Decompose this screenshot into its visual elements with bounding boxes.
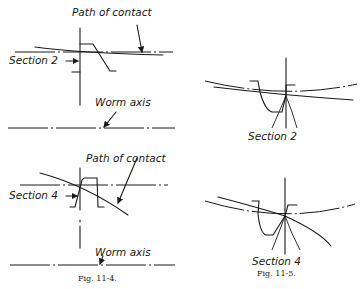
worm-axis-arrow bbox=[104, 112, 116, 127]
fig-11-5-section-2-panel: Section 2 bbox=[205, 58, 357, 142]
tooth-profile bbox=[70, 178, 104, 207]
section-2-label: Section 2 bbox=[9, 54, 58, 66]
path-of-contact-arrow bbox=[137, 25, 142, 52]
path-of-contact-arrow bbox=[118, 158, 137, 203]
worm-axis-label: Worm axis bbox=[95, 96, 151, 108]
fig-11-4-section-2-panel: Path of contact Section 2 Worm axis bbox=[8, 6, 175, 128]
path-of-contact-label: Path of contact bbox=[72, 6, 153, 18]
fig-11-4-section-4-panel: Path of contact Section 4 Worm axis Fig.… bbox=[9, 152, 175, 283]
section-2-label: Section 2 bbox=[248, 130, 297, 142]
worm-axis-label: Worm axis bbox=[95, 246, 151, 258]
flank-line-right bbox=[286, 96, 297, 128]
diagram-canvas: Path of contact Section 2 Worm axis Path… bbox=[0, 0, 363, 289]
flank-line-right bbox=[285, 216, 300, 250]
figure-caption: Fig. 11-5. bbox=[257, 269, 296, 278]
pitch-circle-arc bbox=[205, 201, 355, 214]
tooth-profile bbox=[250, 81, 295, 112]
figure-caption: Fig. 11-4. bbox=[78, 274, 117, 283]
path-of-contact-label: Path of contact bbox=[86, 152, 167, 164]
fig-11-5-section-4-panel: Section 4 Fig. 11-5. bbox=[205, 178, 355, 278]
path-of-contact-curve bbox=[218, 197, 331, 246]
pitch-circle-arc bbox=[205, 81, 357, 91]
tooth-profile bbox=[80, 44, 116, 71]
section-4-label: Section 4 bbox=[252, 255, 301, 267]
section-4-label: Section 4 bbox=[9, 189, 58, 201]
